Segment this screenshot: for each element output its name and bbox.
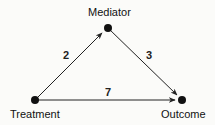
edge-mediator-outcome <box>108 28 177 95</box>
edge-label-mediator-outcome: 3 <box>146 49 152 61</box>
node-treatment-dot <box>31 96 39 104</box>
edge-treatment-mediator <box>35 33 102 100</box>
node-mediator-dot <box>104 24 112 32</box>
node-outcome-dot <box>178 96 186 104</box>
node-label-treatment: Treatment <box>10 108 60 120</box>
edge-label-treatment-outcome: 7 <box>105 86 111 98</box>
diagram-canvas <box>0 0 215 125</box>
edge-label-treatment-mediator: 2 <box>63 49 69 61</box>
node-label-outcome: Outcome <box>161 108 206 120</box>
node-label-mediator: Mediator <box>88 6 131 18</box>
